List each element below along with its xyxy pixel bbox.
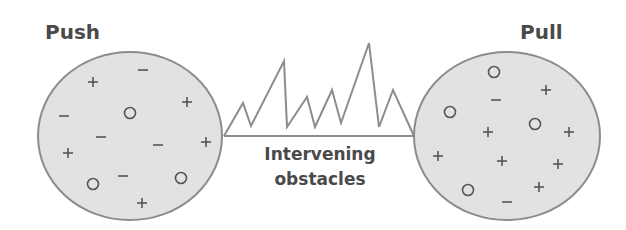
push-label: Push [45, 20, 100, 44]
obstacles-label-line2: obstacles [250, 167, 390, 192]
circle-body [38, 52, 222, 220]
push-pull-diagram: Push Pull Intervening obstacles [0, 0, 626, 230]
intervening-obstacles-graphic [224, 43, 414, 136]
circle-body [414, 52, 600, 220]
push-circle [38, 52, 222, 220]
obstacles-label-line1: Intervening [250, 142, 390, 167]
pull-label: Pull [520, 20, 563, 44]
pull-circle [414, 52, 600, 220]
intervening-obstacles-label: Intervening obstacles [250, 142, 390, 192]
obstacle-peaks-line [224, 43, 414, 136]
